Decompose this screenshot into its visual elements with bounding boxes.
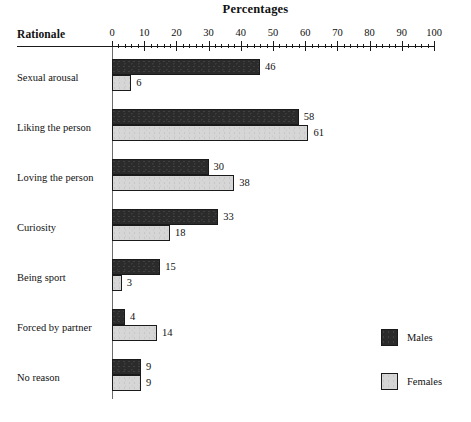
bar-value-label: 9 [146,359,151,375]
bar-value-label: 61 [313,125,324,141]
chart-container: Percentages Rationale 010203040506070809… [0,0,471,422]
x-tick-label: 0 [109,27,114,38]
x-tick-label: 40 [236,27,247,38]
x-tick-label: 60 [300,27,311,38]
bar-value-label: 3 [127,275,132,291]
bar-value-label: 14 [162,325,173,341]
x-tick-label: 90 [397,27,408,38]
bar-group: Loving the person3038 [0,159,471,195]
bar-value-label: 6 [136,75,141,91]
category-label: Sexual arousal [17,73,79,84]
bar-females[interactable] [112,175,234,191]
bar-value-label: 15 [165,259,176,275]
category-label: Loving the person [17,173,93,184]
bar-females[interactable] [112,225,170,241]
x-tick-label: 70 [332,27,343,38]
legend-swatch-males-icon [381,329,398,346]
bar-value-label: 33 [223,209,234,225]
bar-males[interactable] [112,259,160,275]
bar-males[interactable] [112,59,260,75]
legend-swatch-females-icon [381,373,398,390]
x-tick-label: 80 [364,27,375,38]
bar-value-label: 18 [175,225,186,241]
legend-label-males: Males [407,330,433,346]
bar-females[interactable] [112,125,308,141]
bar-value-label: 30 [214,159,225,175]
category-label: Being sport [17,273,66,284]
bar-females[interactable] [112,275,122,291]
category-label: No reason [17,373,60,384]
bar-value-label: 4 [130,309,135,325]
bar-value-label: 9 [146,375,151,391]
plot-area: Sexual arousal466Liking the person5861Lo… [0,47,471,409]
x-tick-label: 50 [268,27,279,38]
x-tick-label: 10 [139,27,150,38]
legend-label-females: Females [407,374,442,390]
bar-group: Being sport153 [0,259,471,295]
x-tick-label: 30 [203,27,214,38]
bar-group: No reason99 [0,359,471,395]
bar-value-label: 46 [265,59,276,75]
x-tick-label: 100 [426,27,442,38]
bar-group: Curiosity3318 [0,209,471,245]
category-label: Liking the person [17,123,91,134]
bar-females[interactable] [112,325,157,341]
bar-value-label: 38 [239,175,250,191]
category-label: Forced by partner [17,323,92,334]
bar-group: Sexual arousal466 [0,59,471,95]
row-header-label: Rationale [17,28,65,40]
x-tick-label: 20 [171,27,182,38]
bar-males[interactable] [112,159,209,175]
bar-males[interactable] [112,209,218,225]
bar-males[interactable] [112,109,299,125]
axis-header: Rationale 0102030405060708090100 [0,0,471,52]
category-label: Curiosity [17,223,56,234]
bar-value-label: 58 [304,109,315,125]
bar-males[interactable] [112,309,125,325]
bar-females[interactable] [112,375,141,391]
bar-group: Liking the person5861 [0,109,471,145]
bar-females[interactable] [112,75,131,91]
bar-males[interactable] [112,359,141,375]
bar-group: Forced by partner414 [0,309,471,345]
